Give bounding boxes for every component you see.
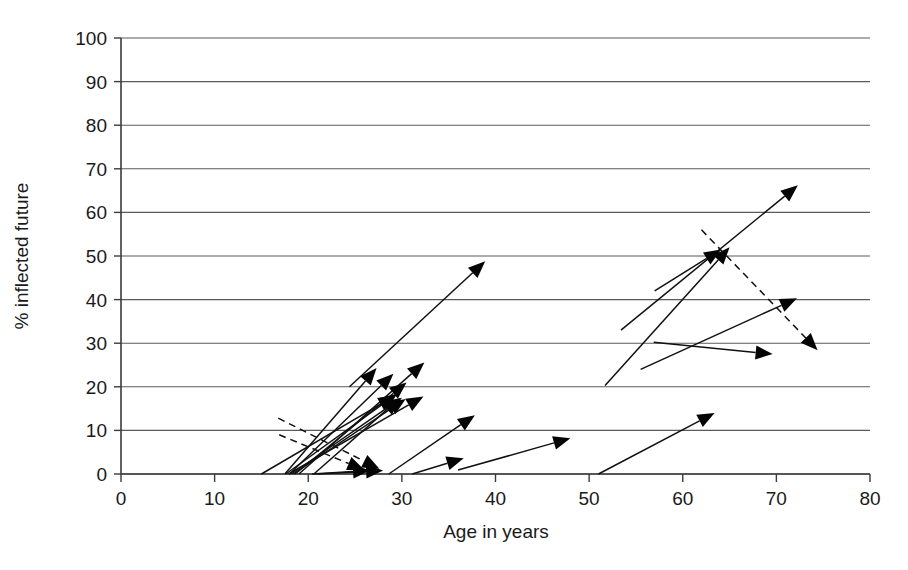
arrow-head-a16	[457, 415, 475, 430]
y-tick-marks-group	[114, 38, 121, 474]
x-tick-labels-group: 01020304050607080	[116, 488, 881, 509]
arrow-a13	[312, 465, 370, 479]
arrow-head-a24	[779, 298, 797, 311]
chart-figure: 0102030405060708090100 01020304050607080…	[0, 0, 908, 570]
x-tick-label-80: 80	[859, 488, 880, 509]
gridlines-group	[121, 38, 870, 474]
y-axis-title: % inflected future	[11, 183, 32, 330]
x-tick-label-0: 0	[116, 488, 127, 509]
arrow-a16	[389, 415, 475, 474]
arrow-shaft-a10	[261, 404, 380, 474]
arrow-head-a19	[696, 413, 714, 427]
x-axis-title: Age in years	[443, 521, 549, 542]
arrow-a02	[285, 368, 377, 474]
arrow-head-a15	[346, 457, 364, 470]
y-tick-label-10: 10	[86, 420, 107, 441]
arrow-shaft-a20	[621, 196, 785, 330]
arrow-a23	[654, 342, 773, 359]
x-tick-label-10: 10	[204, 488, 225, 509]
arrow-shaft-a25	[701, 230, 805, 338]
x-tick-label-60: 60	[672, 488, 693, 509]
arrow-shaft-a24	[641, 305, 782, 369]
arrow-shaft-a22	[605, 260, 718, 386]
y-tick-label-30: 30	[86, 333, 107, 354]
arrow-head-a17	[445, 457, 463, 470]
x-tick-marks-group	[121, 474, 870, 482]
arrow-a19	[598, 413, 714, 474]
arrow-shaft-a19	[598, 421, 699, 474]
x-tick-label-20: 20	[298, 488, 319, 509]
arrow-head-a20	[780, 185, 798, 201]
x-tick-label-40: 40	[485, 488, 506, 509]
arrow-a18	[458, 436, 570, 470]
arrow-head-a02	[360, 368, 376, 385]
data-arrows-group	[261, 185, 817, 478]
arrow-head-a14	[361, 455, 379, 469]
arrow-a24	[641, 298, 797, 369]
arrow-shaft-a18	[458, 443, 554, 470]
y-tick-label-0: 0	[96, 464, 107, 485]
y-tick-label-90: 90	[86, 72, 107, 93]
arrow-a22	[605, 247, 730, 385]
arrow-a17	[412, 457, 463, 474]
arrow-shaft-a21	[655, 258, 707, 290]
chart-canvas: 0102030405060708090100 01020304050607080…	[0, 0, 908, 570]
y-tick-label-70: 70	[86, 159, 107, 180]
arrow-a09	[286, 394, 397, 474]
arrow-shaft-a23	[654, 342, 756, 352]
x-tick-label-50: 50	[579, 488, 600, 509]
arrow-head-a08	[405, 396, 423, 411]
y-tick-label-40: 40	[86, 290, 107, 311]
y-tick-label-20: 20	[86, 377, 107, 398]
arrow-shaft-a17	[412, 463, 447, 474]
y-tick-label-50: 50	[86, 246, 107, 267]
arrow-a03	[290, 374, 394, 474]
arrow-a25	[701, 230, 817, 350]
y-tick-label-60: 60	[86, 202, 107, 223]
arrow-head-a18	[552, 436, 570, 449]
arrow-a10	[261, 396, 395, 474]
x-tick-label-70: 70	[766, 488, 787, 509]
y-tick-label-100: 100	[75, 28, 107, 49]
y-tick-label-80: 80	[86, 115, 107, 136]
x-tick-label-30: 30	[391, 488, 412, 509]
arrow-head-a23	[755, 345, 773, 359]
y-tick-labels-group: 0102030405060708090100	[75, 28, 107, 485]
